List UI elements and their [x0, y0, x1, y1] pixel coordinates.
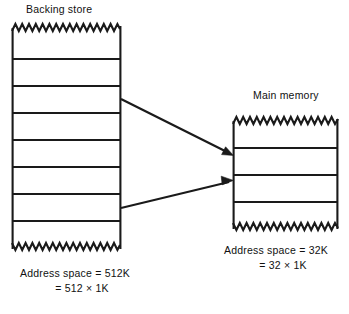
backing-store-caption-line-2: = 512 × 1K — [16, 281, 134, 296]
memory-mapping-figure: Backing store Main memory Address space … — [0, 0, 349, 314]
main-memory-shape — [233, 117, 338, 230]
backing-store-shape — [12, 24, 121, 250]
mapping-arrow-lower-head — [221, 176, 233, 185]
main-memory-caption-line-2: = 32 × 1K — [210, 258, 342, 273]
main-memory-title: Main memory — [253, 88, 319, 103]
mapping-arrow-lower-line — [121, 182, 229, 208]
backing-store-caption: Address space = 512K = 512 × 1K — [16, 266, 134, 296]
main-memory-bottom-zigzag — [233, 223, 338, 230]
backing-store-caption-line-1: Address space = 512K — [16, 266, 134, 281]
backing-store-title: Backing store — [26, 2, 92, 17]
backing-store-bottom-zigzag — [12, 243, 120, 250]
mapping-arrow-upper-head — [222, 147, 234, 156]
mapping-arrow-upper-line — [121, 99, 229, 153]
main-memory-caption: Address space = 32K = 32 × 1K — [210, 243, 342, 273]
main-memory-caption-line-1: Address space = 32K — [210, 243, 342, 258]
backing-store-top-zigzag — [12, 24, 120, 31]
mapping-arrows — [121, 99, 233, 208]
main-memory-top-zigzag — [233, 117, 338, 124]
